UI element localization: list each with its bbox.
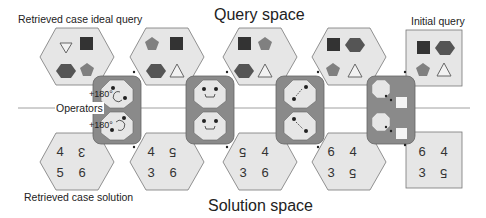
rotation-label-bottom: +180° [89,120,113,130]
number-cell: 6 [75,166,89,180]
number-cell: 5 [166,145,180,159]
retrieved-case-solution-label: Retrieved case solution [24,191,133,203]
number-cell: 6 [415,145,429,159]
number-cell: 6 [166,166,180,180]
retrieved-case-ideal-query-label: Retrieved case ideal query [18,13,142,25]
square-icon [327,38,340,51]
number-cell: 5 [346,166,360,180]
number-cell: 6 [258,166,272,180]
number-cell: 3 [144,166,158,180]
initial-query-label: Initial query [411,15,465,27]
rotation-label-top: +180° [89,89,113,99]
number-cell: 6 [324,145,338,159]
square-icon [417,41,430,54]
number-cell: 4 [437,145,451,159]
solution-space-title: Solution space [208,197,313,215]
square-icon [170,37,183,50]
operator-3-diagonal [276,76,324,144]
operator-2-swap [186,76,234,144]
query-space-title: Query space [214,6,305,24]
query-panel-initial [406,30,462,86]
number-cell: 5 [236,145,250,159]
number-cell: 4 [53,145,67,159]
square-icon [238,37,251,50]
number-cell: 4 [144,145,158,159]
number-cell: 3 [415,166,429,180]
number-cell: 4 [346,145,360,159]
number-cell: 5 [53,166,67,180]
square-icon [80,37,93,50]
operators-label: Operators [55,102,104,114]
number-cell: 5 [437,166,451,180]
number-cell: 3 [75,145,89,159]
operator-4-move [367,76,415,144]
number-cell: 4 [258,145,272,159]
number-cell: 3 [324,166,338,180]
number-cell: 3 [236,166,250,180]
